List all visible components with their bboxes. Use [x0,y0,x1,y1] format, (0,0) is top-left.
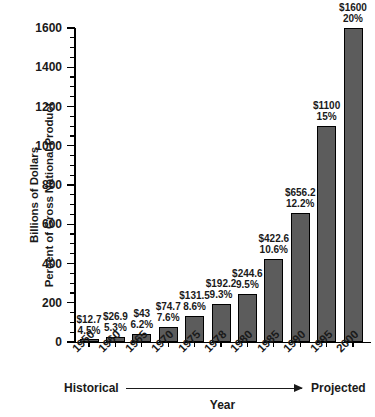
bar-1995 [317,126,336,342]
bar-value-label-2000: $160020% [327,2,375,24]
bar-value-label-1985: $422.610.6% [248,233,300,255]
projected-label: Projected [311,380,366,396]
bar-percent-1990: 12.2% [274,198,326,209]
x-axis-tick-1985 [273,342,274,347]
bar-chart-figure: Billions of Dollars Percent of Gross Nat… [0,0,375,417]
y-axis-tick-label: 600 [2,218,62,230]
x-axis-tick-1990 [300,342,301,347]
y-axis-tick-label: 1600 [2,22,62,34]
x-axis-tick-1975 [194,342,195,347]
x-axis-tick-1980 [247,342,248,347]
bar-percent-1980: 9.5% [221,279,273,290]
bar-2000 [344,28,363,342]
x-axis-title: Year [0,398,375,412]
y-axis-tick-label: 800 [2,179,62,191]
bar-amount-1985: $422.6 [248,233,300,244]
historical-label: Historical [64,380,119,396]
y-axis-tick-label: 200 [2,297,62,309]
x-axis-tick-1995 [326,342,327,347]
bar-amount-2000: $1600 [327,2,375,13]
y-axis-tick-label: 1400 [2,61,62,73]
x-axis-tick-1978 [220,342,221,347]
y-axis-tick-label: 1000 [2,140,62,152]
bar-amount-1990: $656.2 [274,187,326,198]
bar-percent-1978: 9.3% [195,289,247,300]
bar-amount-1995: $1100 [301,100,353,111]
x-axis-tick-1965 [141,342,142,347]
x-axis-tick-2000 [352,342,353,347]
timeline-arrow-icon [126,388,302,389]
bar-value-label-1990: $656.212.2% [274,187,326,209]
x-axis-tick-1960 [115,342,116,347]
x-axis-tick-1970 [168,342,169,347]
x-axis-tick-1950 [88,342,89,347]
bar-value-label-1995: $110015% [301,100,353,122]
bar-percent-1995: 15% [301,111,353,122]
bar-value-label-1980: $244.69.5% [221,268,273,290]
bar-percent-1975: 8.6% [169,301,221,312]
y-axis-tick-label: 0 [2,336,62,348]
bar-percent-2000: 20% [327,13,375,24]
y-axis-tick-label: 400 [2,258,62,270]
bar-percent-1970: 7.6% [142,312,194,323]
timeline-range-row: Historical Projected [0,380,375,396]
bar-amount-1980: $244.6 [221,268,273,279]
bar-percent-1985: 10.6% [248,244,300,255]
y-axis-tick-label: 1200 [2,101,62,113]
